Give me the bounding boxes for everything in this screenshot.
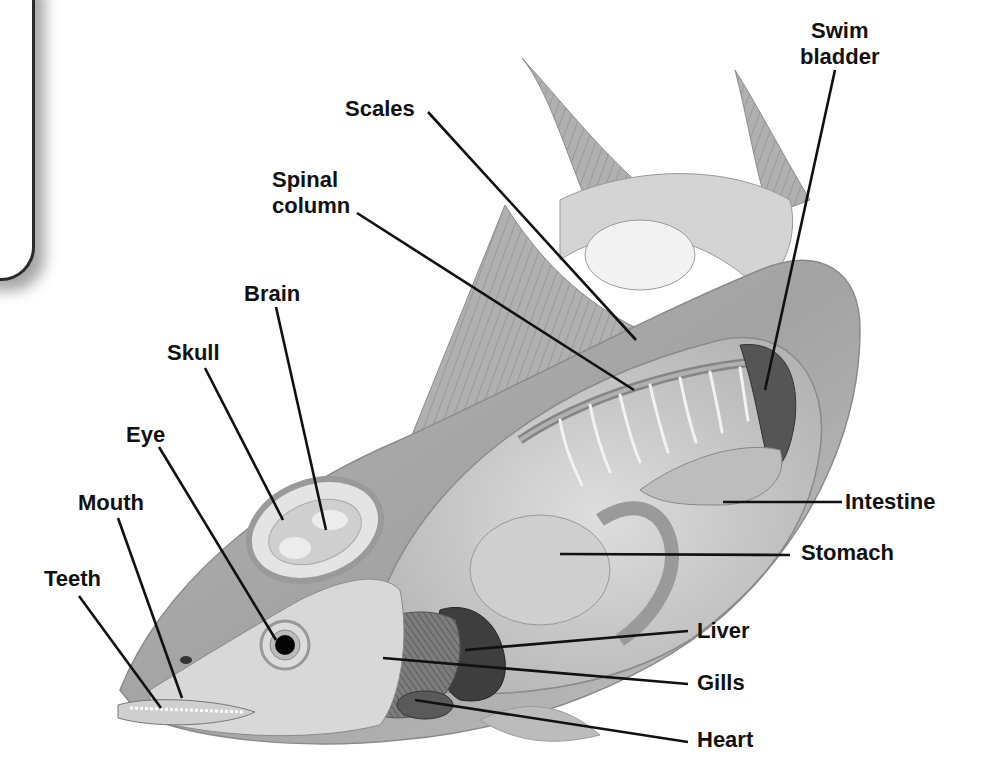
fish-illustration [0, 0, 988, 780]
label-text: column [272, 193, 350, 219]
leader-line-skull [205, 368, 283, 520]
label-mouth: Mouth [78, 490, 144, 516]
label-spinal-column: Spinalcolumn [272, 167, 350, 219]
label-text: Intestine [845, 489, 935, 515]
label-skull: Skull [167, 340, 220, 366]
label-text: Liver [697, 618, 750, 644]
label-intestine: Intestine [845, 489, 935, 515]
label-text: Scales [345, 96, 415, 122]
stomach-illustration [470, 515, 610, 625]
label-text: Mouth [78, 490, 144, 516]
label-text: Skull [167, 340, 220, 366]
label-text: Teeth [44, 566, 101, 592]
label-text: Eye [126, 422, 165, 448]
label-text: Stomach [801, 540, 894, 566]
label-heart: Heart [697, 727, 753, 753]
label-scales: Scales [345, 96, 415, 122]
label-text: Swim [800, 18, 879, 44]
label-text: Spinal [272, 167, 350, 193]
label-brain: Brain [244, 281, 300, 307]
label-gills: Gills [697, 670, 745, 696]
label-text: Gills [697, 670, 745, 696]
label-eye: Eye [126, 422, 165, 448]
label-stomach: Stomach [801, 540, 894, 566]
tail-fin [522, 58, 810, 290]
label-swim-bladder: Swimbladder [800, 18, 879, 70]
leader-line-stomach [560, 554, 790, 555]
label-text: bladder [800, 44, 879, 70]
label-text: Brain [244, 281, 300, 307]
fish-anatomy-diagram: SwimbladderScalesSpinalcolumnBrainSkullE… [0, 0, 988, 780]
label-teeth: Teeth [44, 566, 101, 592]
label-text: Heart [697, 727, 753, 753]
label-liver: Liver [697, 618, 750, 644]
